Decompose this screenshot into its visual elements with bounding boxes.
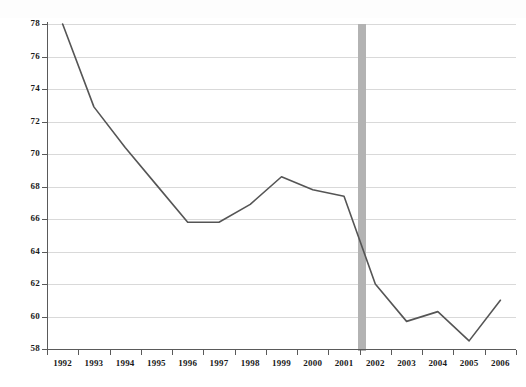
line-chart: 7876747270686664626058 19921993199419951… (0, 0, 526, 387)
series-line-1 (63, 24, 501, 341)
series-layer (0, 0, 526, 387)
